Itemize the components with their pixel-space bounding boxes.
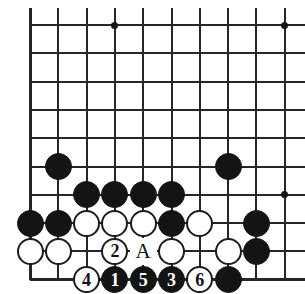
stone-move-number: 3: [167, 270, 176, 288]
star-point: [111, 22, 118, 29]
stone-move-number: 4: [82, 270, 91, 288]
stone-black[interactable]: [130, 181, 157, 208]
stone-black[interactable]: [17, 210, 44, 237]
stone-black[interactable]: [45, 210, 72, 237]
stone-white[interactable]: [73, 210, 100, 237]
grid-line-horizontal: [30, 52, 305, 54]
stone-white-move-4[interactable]: 4: [73, 266, 100, 293]
stone-white[interactable]: [130, 210, 157, 237]
stone-black[interactable]: [101, 181, 128, 208]
stone-black[interactable]: [158, 210, 185, 237]
stone-black[interactable]: [73, 181, 100, 208]
star-point: [281, 22, 288, 29]
grid-line-vertical: [86, 8, 88, 280]
stone-black[interactable]: [215, 266, 242, 293]
stone-black[interactable]: [45, 153, 72, 180]
stone-black-move-3[interactable]: 3: [158, 266, 185, 293]
grid-line-vertical: [199, 8, 201, 280]
stone-black[interactable]: [215, 153, 242, 180]
stone-move-number: 2: [110, 242, 119, 260]
point-label-a[interactable]: A: [130, 238, 157, 265]
stone-white[interactable]: [158, 238, 185, 265]
stone-white[interactable]: [186, 210, 213, 237]
stone-white[interactable]: [45, 238, 72, 265]
grid-line-horizontal: [30, 81, 305, 83]
stone-black[interactable]: [243, 210, 270, 237]
stone-white[interactable]: [101, 210, 128, 237]
stone-white[interactable]: [215, 238, 242, 265]
grid-line-vertical: [284, 8, 286, 280]
stone-black[interactable]: [158, 181, 185, 208]
stone-white[interactable]: [17, 238, 44, 265]
grid-line-horizontal: [30, 109, 305, 111]
stone-move-number: 1: [110, 270, 119, 288]
stone-white-move-6[interactable]: 6: [186, 266, 213, 293]
stone-black[interactable]: [243, 238, 270, 265]
stone-black-move-5[interactable]: 5: [130, 266, 157, 293]
star-point: [281, 191, 288, 198]
grid-line-horizontal: [30, 24, 305, 26]
stone-move-number: 6: [195, 270, 204, 288]
grid-line-horizontal: [30, 137, 305, 139]
stone-move-number: 5: [139, 270, 148, 288]
stone-black-move-1[interactable]: 1: [101, 266, 128, 293]
stone-white-move-2[interactable]: 2: [101, 238, 128, 265]
go-board-diagram: 241536A: [0, 0, 305, 294]
